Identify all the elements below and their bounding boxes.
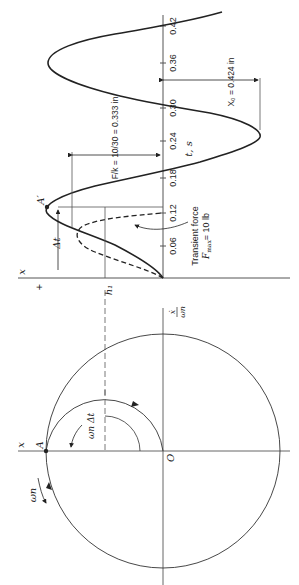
delta-t-label: Δt xyxy=(51,236,62,249)
angle-leader xyxy=(71,425,82,447)
angle-label: ωn Δt xyxy=(86,413,96,439)
angle-arc xyxy=(105,416,140,451)
tick-0.24: 0.24 xyxy=(168,132,178,150)
svg-text:ωn: ωn xyxy=(178,306,187,318)
omega-leader xyxy=(38,478,46,503)
svg-text:F/k = 10/30 = 0.333 in: F/k = 10/30 = 0.333 in xyxy=(110,96,120,179)
phase-x-label: x xyxy=(15,442,26,448)
peak-label: A′ xyxy=(35,195,46,206)
time-plot: 0.06 0.12 0.18 0.24 0.30 0.36 0.42 t, s … xyxy=(16,12,290,295)
static-deflection-label: F/k = 10/30 = 0.333 in xyxy=(110,96,120,179)
vibration-response-figure: 0.06 0.12 0.18 0.24 0.30 0.36 0.42 t, s … xyxy=(0,0,299,585)
tick-0.36: 0.36 xyxy=(168,54,178,72)
phase-small-arc xyxy=(46,400,163,451)
point-a-label: A xyxy=(34,441,45,449)
transient-force-leader xyxy=(135,222,188,229)
tick-0.12: 0.12 xyxy=(168,204,178,222)
velocity-axis-label: ẋ ωn xyxy=(168,306,187,318)
svg-text:Fmax= 10 lb: Fmax= 10 lb xyxy=(201,213,212,260)
plus-sign: + xyxy=(33,284,45,290)
svg-text:ẋ: ẋ xyxy=(168,309,177,314)
fmax-label: Fmax= 10 lb xyxy=(201,213,212,260)
amplitude-label: X₀ = 0.424 in xyxy=(226,57,236,106)
tick-0.42: 0.42 xyxy=(168,17,178,35)
rotation-label: ωn xyxy=(27,488,38,503)
tick-0.06: 0.06 xyxy=(168,237,178,255)
origin-label: O xyxy=(165,454,176,462)
small-arc-arrow xyxy=(131,401,139,407)
tick-0.18: 0.18 xyxy=(168,169,178,187)
phase-plane: ωn Δt A x ωn O ẋ ωn xyxy=(15,306,290,585)
transient-force-curve xyxy=(77,213,163,278)
time-axis-label: t, s xyxy=(183,141,194,157)
transient-force-label: Transient force xyxy=(190,206,200,266)
response-curve xyxy=(46,12,260,278)
time-plot-displacement-label: x xyxy=(16,269,27,275)
